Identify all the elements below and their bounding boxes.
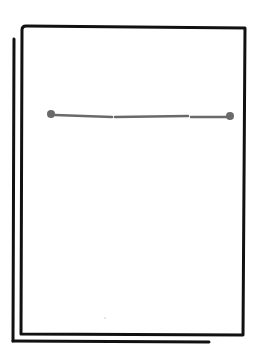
document-stack-illustration: Sketch of stacked document pages with a … (0, 0, 258, 350)
back-page-bottom-edge (13, 341, 209, 342)
back-page-left-edge (13, 39, 14, 341)
divider-start-dot-icon (47, 110, 55, 118)
paper-speck (104, 317, 106, 319)
front-page-outline (21, 26, 245, 335)
divider-segment (115, 116, 188, 117)
divider-end-dot-icon (226, 112, 234, 120)
